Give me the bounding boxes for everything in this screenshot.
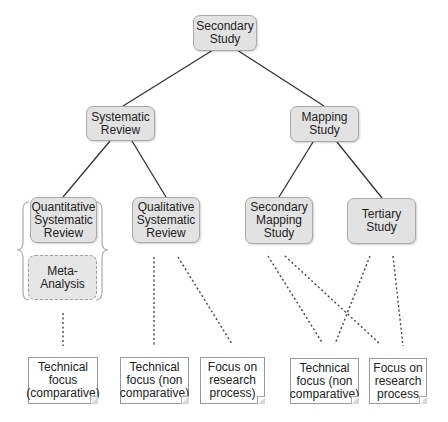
node-label: Secondary Mapping Study bbox=[250, 201, 307, 240]
node-meta-analysis: Meta- Analysis bbox=[28, 255, 97, 300]
node-label: Tertiary Study bbox=[362, 208, 401, 234]
note-label: Technical focus (non comparative) bbox=[290, 362, 359, 401]
node-quantitative-sr: Quantitative Systematic Review bbox=[30, 197, 97, 243]
note-research-1: Focus on research process) bbox=[200, 357, 265, 404]
page-fold-icon bbox=[90, 396, 98, 404]
edge-mapping-to-secondary-mapping bbox=[279, 142, 313, 197]
node-secondary-mapping-study: Secondary Mapping Study bbox=[245, 197, 313, 244]
note-label: Focus on research process bbox=[373, 362, 422, 401]
page-fold-icon bbox=[257, 396, 265, 404]
node-label: Mapping Study bbox=[301, 111, 347, 137]
edge-secondary-to-systematic bbox=[123, 50, 213, 106]
page-fold-icon bbox=[351, 396, 359, 404]
edge-secondary-to-mapping bbox=[237, 50, 324, 106]
node-label: Qualitative Systematic Review bbox=[137, 201, 196, 240]
node-label: Secondary Study bbox=[196, 20, 253, 46]
note-tech-noncomp-1: Technical focus (non comparative) bbox=[120, 357, 189, 404]
dotted-secmap-to-tech bbox=[268, 256, 323, 344]
page-fold-icon bbox=[181, 396, 189, 404]
node-label: Quantitative Systematic Review bbox=[31, 201, 95, 240]
dotted-secmap-to-research bbox=[285, 256, 380, 344]
edge-systematic-to-qualitative bbox=[132, 141, 166, 197]
dotted-tertiary-to-research bbox=[393, 256, 403, 346]
right-brace-icon bbox=[96, 202, 108, 300]
node-mapping-study: Mapping Study bbox=[290, 106, 359, 142]
edge-systematic-to-quantitative bbox=[63, 141, 110, 197]
node-qualitative-sr: Qualitative Systematic Review bbox=[132, 197, 200, 243]
node-label: Meta- Analysis bbox=[40, 265, 85, 291]
node-systematic-review: Systematic Review bbox=[86, 106, 155, 141]
node-secondary-study: Secondary Study bbox=[193, 15, 257, 51]
note-tech-comparative: Technical focus (comparative) bbox=[28, 357, 98, 404]
page-fold-icon bbox=[419, 396, 427, 404]
note-label: Technical focus (non comparative) bbox=[120, 361, 189, 400]
node-tertiary-study: Tertiary Study bbox=[347, 198, 416, 244]
note-tech-noncomp-2: Technical focus (non comparative) bbox=[290, 358, 359, 404]
node-label: Systematic Review bbox=[91, 111, 150, 137]
edge-mapping-to-tertiary bbox=[337, 142, 382, 198]
note-research-2: Focus on research process bbox=[369, 358, 427, 404]
note-label: Technical focus (comparative) bbox=[26, 361, 99, 400]
dotted-qualitative-to-research bbox=[178, 257, 232, 344]
note-label: Focus on research process) bbox=[208, 361, 257, 400]
